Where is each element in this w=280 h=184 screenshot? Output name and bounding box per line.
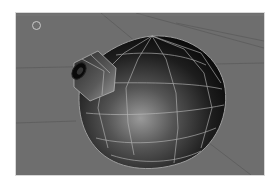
3d-cursor-icon[interactable] [32, 21, 41, 30]
3d-viewport[interactable] [16, 13, 264, 175]
viewport-canvas[interactable] [16, 13, 264, 175]
mesh-object[interactable] [69, 36, 226, 169]
